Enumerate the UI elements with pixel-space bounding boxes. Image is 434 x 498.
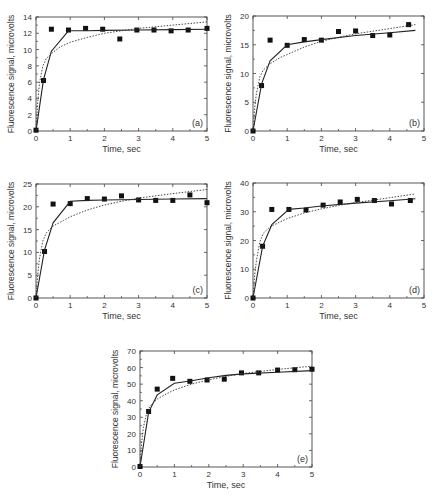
x-tick-label: 2 (102, 301, 107, 310)
data-point-marker (205, 26, 210, 31)
data-point-marker (321, 203, 326, 208)
y-tick-label: 5 (28, 271, 33, 280)
x-tick-label: 3 (136, 301, 141, 310)
y-axis-label: Fluorescence signal, microvolts (110, 350, 120, 469)
panel-e: 012345010203040506070Time, secFluorescen… (110, 347, 315, 490)
y-tick-label: 0 (28, 294, 33, 303)
y-tick-label: 40 (240, 179, 249, 188)
x-tick-label: 2 (319, 301, 324, 310)
panel-label: (d) (409, 285, 420, 295)
y-tick-label: 20 (127, 430, 136, 439)
plot-frame (36, 184, 207, 298)
x-tick-label: 0 (251, 301, 256, 310)
figure: 01234502468101214Time, secFluorescence s… (0, 0, 434, 498)
panel-label: (a) (192, 118, 203, 128)
y-tick-label: 10 (240, 70, 249, 79)
x-tick-label: 3 (241, 470, 246, 479)
y-tick-label: 0 (28, 127, 33, 136)
x-tick-label: 3 (136, 134, 141, 143)
x-tick-label: 2 (319, 134, 324, 143)
y-tick-label: 50 (127, 380, 136, 389)
x-axis-label: Time, sec (319, 311, 358, 321)
panel-d: 012345010203040Time, secFluorescence sig… (223, 179, 427, 321)
dotted-fit-line (36, 190, 207, 299)
solid-fit-line (36, 199, 207, 298)
y-tick-label: 8 (28, 62, 33, 71)
figure-svg: 01234502468101214Time, secFluorescence s… (0, 0, 434, 498)
x-tick-label: 1 (68, 301, 73, 310)
y-axis-label: Fluorescence signal, microvolts (6, 182, 16, 301)
solid-fit-line (253, 199, 415, 298)
x-tick-label: 4 (171, 134, 176, 143)
x-tick-label: 2 (207, 470, 212, 479)
y-tick-label: 5 (245, 98, 250, 107)
x-axis-label: Time, sec (207, 480, 246, 490)
y-tick-label: 6 (28, 78, 33, 87)
y-tick-label: 2 (28, 111, 33, 120)
x-axis-label: Time, sec (319, 144, 358, 154)
data-point-marker (51, 202, 56, 207)
data-point-marker (336, 29, 341, 34)
data-point-marker (155, 387, 160, 392)
y-axis-label: Fluorescence signal, microvolts (6, 15, 16, 134)
y-tick-label: 70 (127, 347, 136, 356)
data-point-marker (355, 197, 360, 202)
dotted-fit-line (253, 25, 415, 131)
x-tick-label: 5 (205, 301, 210, 310)
x-axis-label: Time, sec (102, 144, 141, 154)
x-tick-label: 5 (310, 470, 315, 479)
x-tick-label: 5 (422, 134, 427, 143)
x-tick-label: 3 (353, 134, 358, 143)
y-tick-label: 12 (23, 29, 32, 38)
data-point-marker (66, 28, 71, 33)
panel-a: 01234502468101214Time, secFluorescence s… (6, 13, 210, 154)
y-tick-label: 10 (240, 265, 249, 274)
y-tick-label: 0 (132, 463, 137, 472)
panel-label: (b) (409, 118, 420, 128)
y-tick-label: 4 (28, 94, 33, 103)
y-tick-label: 15 (240, 41, 249, 50)
data-point-marker (83, 26, 88, 31)
data-point-marker (269, 207, 274, 212)
y-tick-label: 40 (127, 397, 136, 406)
data-point-marker (49, 27, 54, 32)
y-axis-label: Fluorescence signal, microvolts (223, 14, 233, 133)
y-tick-label: 20 (23, 203, 32, 212)
data-point-marker (205, 200, 210, 205)
panel-label: (c) (193, 285, 204, 295)
y-tick-label: 15 (23, 226, 32, 235)
panel-b: 01234505101520Time, secFluorescence sign… (223, 12, 427, 154)
data-point-marker (268, 38, 273, 43)
y-tick-label: 10 (127, 446, 136, 455)
x-tick-label: 1 (172, 470, 177, 479)
y-tick-label: 14 (23, 13, 32, 22)
data-point-marker (389, 201, 394, 206)
panel-label: (e) (297, 454, 308, 464)
data-point-marker (170, 376, 175, 381)
x-tick-label: 5 (422, 301, 427, 310)
x-axis-label: Time, sec (102, 311, 141, 321)
y-tick-label: 20 (240, 12, 249, 21)
y-tick-label: 10 (23, 46, 32, 55)
y-tick-label: 20 (240, 237, 249, 246)
data-point-marker (117, 36, 122, 41)
x-tick-label: 4 (388, 134, 393, 143)
solid-fit-line (253, 30, 415, 131)
y-tick-label: 30 (127, 413, 136, 422)
y-tick-label: 0 (245, 294, 250, 303)
solid-fit-line (140, 371, 312, 467)
data-point-marker (406, 22, 411, 27)
panel-c: 0123450510152025Time, secFluorescence si… (6, 180, 210, 321)
x-tick-label: 4 (171, 301, 176, 310)
y-tick-label: 0 (245, 127, 250, 136)
x-tick-label: 0 (34, 134, 39, 143)
x-tick-label: 4 (388, 301, 393, 310)
x-tick-label: 1 (285, 134, 290, 143)
x-tick-label: 0 (34, 301, 39, 310)
solid-fit-line (36, 29, 207, 131)
y-axis-label: Fluorescence signal, microvolts (223, 181, 233, 300)
data-point-marker (119, 193, 124, 198)
plot-frame (36, 17, 207, 131)
y-tick-label: 10 (23, 248, 32, 257)
y-tick-label: 30 (240, 208, 249, 217)
